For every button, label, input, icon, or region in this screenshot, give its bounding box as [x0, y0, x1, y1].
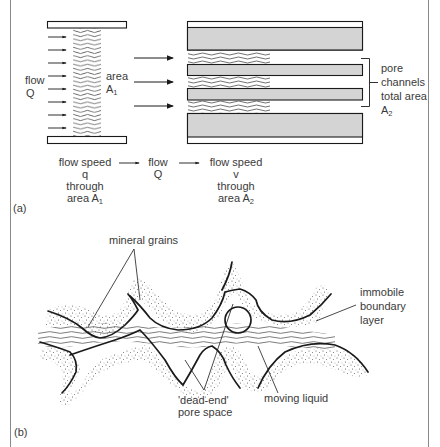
pore-bracket: [361, 59, 378, 107]
top-plate: [48, 22, 127, 29]
seq2-line1: flow: [148, 156, 168, 168]
channel-fluid-2: [188, 76, 270, 88]
boundary-label-3: layer: [360, 314, 384, 326]
boundary-label-2: boundary: [360, 300, 406, 312]
panel-a-tag: (a): [13, 202, 26, 214]
bottom-plate: [48, 137, 127, 144]
seq2-line2: Q: [154, 168, 163, 180]
area1-symbol: A1: [106, 83, 118, 97]
boundary-label-1: immobile: [360, 286, 404, 298]
seq1-line3: through: [66, 180, 103, 192]
seq3-line4: area A2: [218, 192, 254, 206]
inlet-section: flow Q area A1: [25, 22, 129, 144]
panel-b-tag: (b): [14, 426, 27, 438]
seq1-line4: area A1: [67, 192, 103, 206]
grain-bar-2: [188, 89, 363, 101]
dead-end-label-1: 'dead-end': [178, 394, 229, 406]
inlet-q-label: Q: [26, 87, 35, 99]
pore-channel-section: pore channels total area A2: [188, 22, 428, 144]
panel-b: mineral grains immobile boundary layer '…: [14, 234, 406, 438]
mineral-grains-label: mineral grains: [109, 234, 179, 246]
seq1-line2: q: [82, 168, 88, 180]
channel-fluid-3: [188, 101, 270, 113]
fluid-column: [73, 29, 101, 137]
flow-sequence: flow speed q through area A1 flow Q flow…: [59, 156, 263, 206]
pore-flow-diagram: flow Q area A1 pore channels total area: [0, 0, 440, 447]
pore-label-1: pore: [381, 62, 403, 74]
channel-fluid-1: [188, 52, 270, 64]
inlet-arrows: [48, 37, 66, 128]
grain-bar-1: [188, 65, 363, 76]
grain-block-bottom: [188, 114, 363, 138]
seq1-line1: flow speed: [59, 156, 112, 168]
seq3-line1: flow speed: [210, 156, 263, 168]
seq3-line3: through: [217, 180, 254, 192]
grain-block-top: [188, 28, 363, 51]
pore-label-3: total area: [381, 90, 428, 102]
seq3-line2: v: [233, 168, 239, 180]
transfer-arrows: [134, 58, 173, 106]
panel-a: flow Q area A1 pore channels total area: [13, 22, 428, 215]
dead-end-label-2: pore space: [178, 406, 232, 418]
pore-label-2: channels: [381, 76, 426, 88]
moving-liquid-label: moving liquid: [264, 392, 328, 404]
area1-label: area: [106, 70, 129, 82]
pore-label-4: A2: [381, 104, 393, 118]
inlet-flow-label: flow: [25, 74, 45, 86]
moving-liquid: [38, 323, 335, 350]
